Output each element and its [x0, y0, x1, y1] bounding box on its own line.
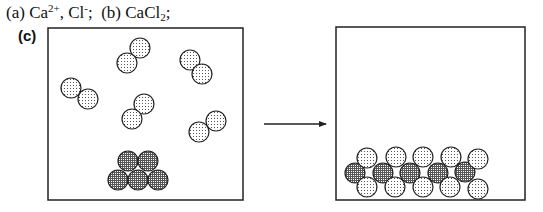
chloride-ion	[413, 147, 433, 167]
chlorine-atom	[117, 53, 137, 73]
calcium-atom	[108, 170, 128, 190]
chloride-ion	[357, 148, 377, 168]
calcium-metal-pile	[108, 151, 168, 190]
chloride-ion	[413, 177, 433, 197]
calcium-atom	[138, 151, 158, 171]
chlorine-atom	[122, 109, 142, 129]
chlorine-atom	[192, 64, 212, 84]
chloride-ion	[357, 177, 377, 197]
chlorine-atom	[61, 78, 81, 98]
calcium-atom	[128, 170, 148, 190]
chlorine-atom	[78, 89, 98, 109]
calcium-atom	[148, 170, 168, 190]
chloride-ion	[441, 147, 461, 167]
chlorine-atom	[206, 111, 226, 131]
chlorine-molecules	[61, 38, 226, 142]
chloride-ion	[385, 177, 405, 197]
chlorine-atom	[189, 122, 209, 142]
chloride-ion	[386, 147, 406, 167]
chloride-ion	[468, 179, 488, 199]
reaction-diagram	[0, 0, 543, 212]
chloride-ion	[440, 177, 460, 197]
calcium-chloride-lattice	[345, 147, 488, 199]
chloride-ion	[468, 149, 488, 169]
calcium-atom	[118, 151, 138, 171]
